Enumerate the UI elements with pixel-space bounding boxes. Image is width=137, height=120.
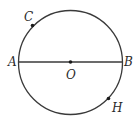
point-c-dot — [31, 24, 35, 28]
circle-diagram: A B O C H — [0, 0, 137, 120]
label-h: H — [111, 101, 123, 115]
label-a: A — [7, 55, 17, 69]
label-c: C — [24, 10, 33, 24]
point-o-dot — [69, 60, 73, 64]
label-b: B — [123, 55, 133, 69]
point-h-dot — [107, 97, 111, 101]
label-o: O — [66, 68, 76, 82]
